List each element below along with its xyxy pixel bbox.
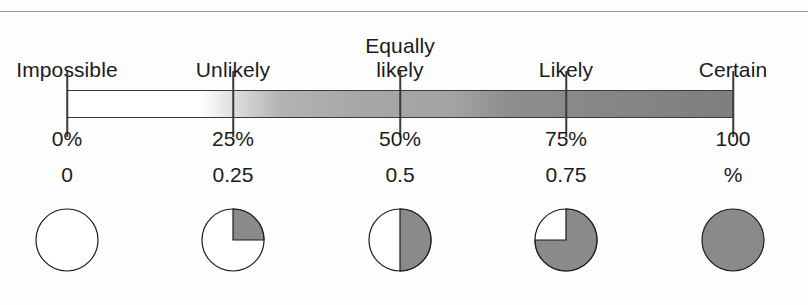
probability-bar bbox=[67, 90, 733, 118]
page-top-rule bbox=[0, 11, 808, 12]
decimal-label: 0 bbox=[61, 163, 73, 186]
pie-0 bbox=[33, 206, 101, 278]
percent-label: 75% bbox=[545, 127, 587, 150]
decimal-label: 0.75 bbox=[546, 163, 587, 186]
decimal-label: 0.5 bbox=[385, 163, 414, 186]
percent-label: 50% bbox=[379, 127, 421, 150]
decimal-label: % bbox=[724, 163, 743, 186]
percent-label: 25% bbox=[212, 127, 254, 150]
pie-25 bbox=[199, 206, 267, 278]
decimal-label: 0.25 bbox=[213, 163, 254, 186]
pie-75 bbox=[532, 206, 600, 278]
percent-label: 0% bbox=[52, 127, 82, 150]
probability-scale-figure: ImpossibleUnlikelyEqually likelyLikelyCe… bbox=[0, 0, 808, 305]
pie-100 bbox=[699, 206, 767, 278]
percent-label: 100 bbox=[715, 127, 750, 150]
pie-50 bbox=[366, 206, 434, 278]
